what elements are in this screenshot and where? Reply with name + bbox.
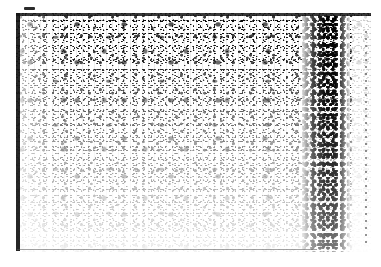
binding-gutter-shading-mask [302,16,350,252]
registration-dash-mark [24,7,35,10]
scan-content-plate [16,13,371,252]
left-edge-lightening-mask [20,16,66,252]
bottom-border-rule [17,249,317,250]
left-border-rule [16,13,20,251]
right-margin-area [352,16,371,252]
binding-gutter-fade-mask [302,16,350,252]
right-dotted-rule [365,31,367,246]
binding-gutter-band [302,16,350,252]
top-border-rule [16,13,371,16]
vertical-streak-noise-layer [16,13,371,252]
medium-blotch-noise-layer [16,13,371,252]
density-gradient-mask [16,13,371,252]
coarse-clump-noise-layer [16,13,371,252]
fine-grain-noise-layer [16,13,371,252]
scanned-page [0,0,381,267]
